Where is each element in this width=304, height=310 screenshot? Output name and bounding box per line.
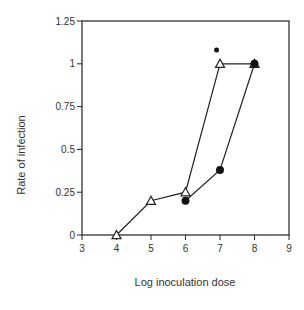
x-tick-label: 7	[217, 243, 223, 254]
y-tick-label: 0	[69, 230, 75, 241]
series-line	[117, 64, 255, 235]
y-tick-label: 0.5	[61, 144, 75, 155]
x-axis-title: Log inoculation dose	[135, 276, 236, 288]
series-line	[186, 64, 255, 201]
y-tick-label: 0.75	[56, 101, 76, 112]
triangle-marker	[181, 188, 190, 196]
x-tick-label: 9	[286, 243, 292, 254]
x-axis: 3456789	[79, 235, 292, 254]
chart: 3456789 00.250.50.7511.25 Log inoculatio…	[0, 0, 304, 310]
series-circle-filled	[182, 60, 259, 205]
x-tick-label: 6	[183, 243, 189, 254]
circle-marker	[182, 197, 190, 205]
x-tick-label: 3	[79, 243, 85, 254]
y-tick-label: 1.25	[56, 16, 76, 27]
y-axis: 00.250.50.7511.25	[56, 16, 82, 241]
y-axis-title: Rate of infection	[15, 115, 27, 195]
series-triangle-open	[112, 59, 259, 238]
circle-marker	[216, 166, 224, 174]
y-tick-label: 0.25	[56, 187, 76, 198]
circle-marker	[251, 60, 259, 68]
x-tick-label: 5	[148, 243, 154, 254]
annotation-dot	[214, 48, 219, 53]
y-tick-label: 1	[69, 58, 75, 69]
x-tick-label: 8	[252, 243, 258, 254]
annotation-layer	[214, 48, 219, 53]
x-tick-label: 4	[114, 243, 120, 254]
series-layer	[112, 59, 259, 238]
